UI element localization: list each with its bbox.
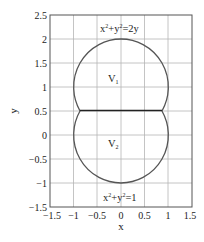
y-tick: −1 <box>36 178 47 189</box>
x-axis-label: x <box>118 220 124 232</box>
equation-lower: x2+y2=1 <box>103 192 137 203</box>
y-tick: 1 <box>42 82 47 93</box>
y-tick: 1.5 <box>35 58 48 69</box>
x-tick: 0.5 <box>138 210 151 221</box>
y-tick-labels: 2.5 2 1.5 1 0.5 0 −0.5 −1 −1.5 <box>29 10 47 213</box>
y-tick: 0 <box>42 130 47 141</box>
y-tick: 2 <box>42 34 47 45</box>
x-tick: 1.5 <box>184 210 197 221</box>
y-tick: −0.5 <box>29 154 47 165</box>
x-tick: −0.5 <box>88 210 106 221</box>
x-tick: −1.5 <box>43 210 61 221</box>
region-v1-label: V1 <box>108 73 119 85</box>
equation-upper: x2+y2=2y <box>100 23 140 34</box>
region-v2-label: V2 <box>108 138 119 150</box>
x-tick: 1 <box>166 210 171 221</box>
y-tick: 2.5 <box>35 10 48 21</box>
y-axis-label: y <box>7 108 19 114</box>
y-tick: 0.5 <box>35 106 48 117</box>
chart: 2.5 2 1.5 1 0.5 0 −0.5 −1 −1.5 −1.5 −1 −… <box>0 0 204 242</box>
x-tick: −1 <box>68 210 79 221</box>
